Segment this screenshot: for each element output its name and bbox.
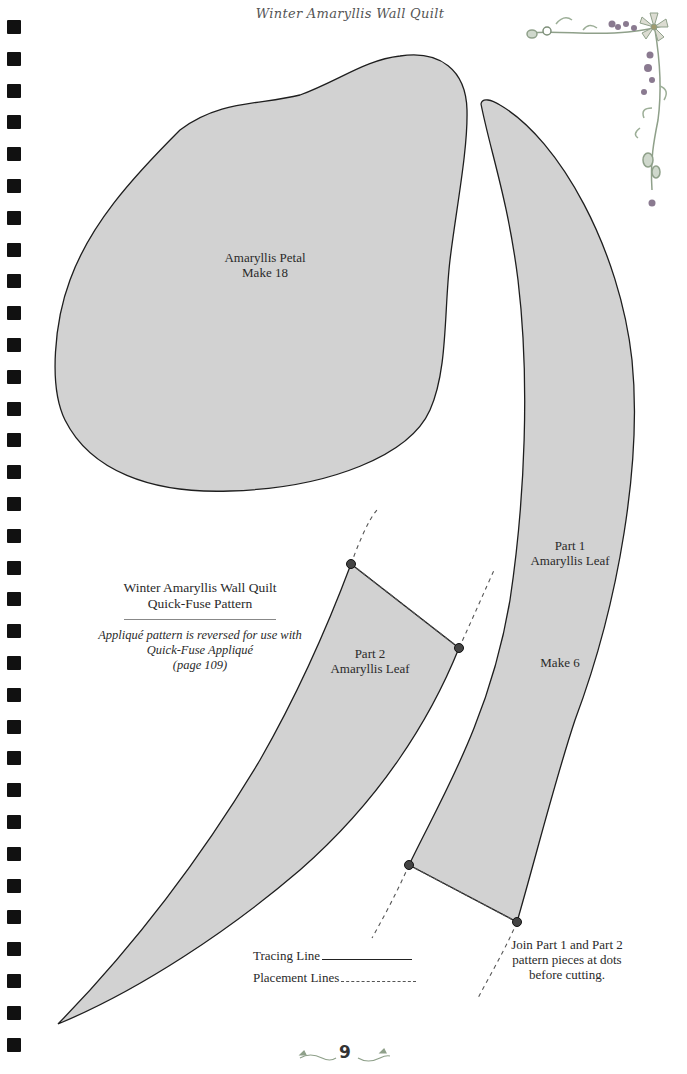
caption-note-line1: Appliqué pattern is reversed for use wit… [95, 628, 305, 643]
caption-note-line3: (page 109) [95, 658, 305, 673]
petal-quantity: Make 18 [200, 265, 330, 280]
leaf-part2-name: Amaryllis Leaf [315, 661, 425, 676]
join-note-line1: Join Part 1 and Part 2 [508, 937, 626, 952]
petal-name: Amaryllis Petal [200, 250, 330, 265]
leaf-part2-part: Part 2 [315, 646, 425, 661]
line-legend: Tracing Line Placement Lines [253, 942, 416, 986]
caption-title-line1: Winter Amaryllis Wall Quilt [95, 580, 305, 596]
join-note-line2: pattern pieces at dots [508, 952, 626, 967]
leaf-part1-quantity: Make 6 [520, 655, 600, 670]
leaf-part2-label: Part 2 Amaryllis Leaf [315, 646, 425, 676]
legend-tracing: Tracing Line [253, 942, 416, 964]
legend-tracing-label: Tracing Line [253, 948, 320, 964]
caption-title-line2: Quick-Fuse Pattern [95, 596, 305, 612]
page-folio: 9 [290, 1040, 400, 1066]
legend-placement-label: Placement Lines [253, 970, 339, 986]
join-note-line3: before cutting. [508, 967, 626, 982]
caption-note-line2: Quick-Fuse Appliqué [95, 643, 305, 658]
leaf-part1-part: Part 1 [515, 538, 625, 553]
placement-line-sample [341, 981, 416, 982]
tracing-line-sample [322, 959, 412, 960]
petal-label: Amaryllis Petal Make 18 [200, 250, 330, 280]
pattern-artwork [0, 0, 687, 1074]
page-number: 9 [290, 1042, 400, 1062]
leaf-part1-name: Amaryllis Leaf [515, 553, 625, 568]
caption-divider [124, 619, 276, 620]
pattern-caption: Winter Amaryllis Wall Quilt Quick-Fuse P… [95, 580, 305, 673]
leaf-part1-label: Part 1 Amaryllis Leaf [515, 538, 625, 568]
legend-placement: Placement Lines [253, 964, 416, 986]
join-note: Join Part 1 and Part 2 pattern pieces at… [508, 937, 626, 982]
